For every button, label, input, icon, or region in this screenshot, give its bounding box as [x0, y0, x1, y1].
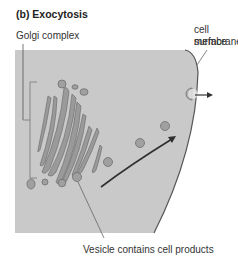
- exocytosis-diagram: [0, 0, 238, 258]
- membrane-leader-line: [197, 50, 207, 65]
